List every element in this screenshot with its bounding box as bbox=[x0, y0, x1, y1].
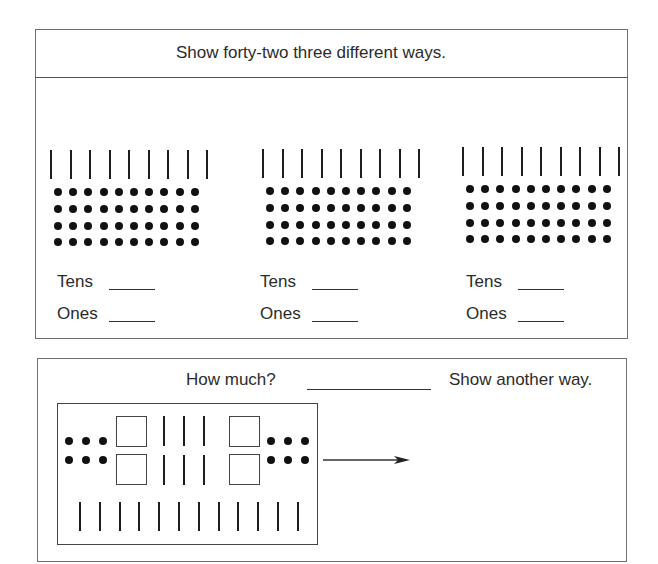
tens-stick bbox=[462, 147, 464, 176]
tens-stick bbox=[579, 147, 581, 176]
tens-label: Tens bbox=[57, 272, 93, 292]
ones-dot bbox=[281, 221, 289, 229]
ones-dot bbox=[357, 221, 365, 229]
tens-stick bbox=[167, 150, 169, 179]
tens-stick bbox=[257, 502, 259, 531]
how-much-answer-blank[interactable] bbox=[307, 389, 431, 390]
top-panel bbox=[35, 29, 628, 339]
tens-stick bbox=[501, 147, 503, 176]
ones-dot bbox=[512, 235, 520, 243]
ones-dot bbox=[603, 202, 611, 210]
ones-dot bbox=[312, 221, 320, 229]
ones-dot bbox=[388, 221, 396, 229]
ones-dot bbox=[160, 222, 168, 230]
ones-dot bbox=[266, 187, 274, 195]
tens-stick bbox=[183, 455, 185, 485]
tens-stick bbox=[148, 150, 150, 179]
ones-dot bbox=[542, 185, 550, 193]
hundred-square bbox=[116, 454, 147, 485]
ones-dot bbox=[54, 222, 62, 230]
ones-dot bbox=[342, 204, 350, 212]
tens-stick bbox=[262, 149, 264, 178]
tens-stick bbox=[399, 149, 401, 178]
ones-dot bbox=[388, 204, 396, 212]
ones-dot bbox=[296, 221, 304, 229]
ones-dot bbox=[191, 188, 199, 196]
ones-dot bbox=[557, 219, 565, 227]
ones-dot bbox=[84, 222, 92, 230]
show-another-way-area[interactable] bbox=[430, 400, 620, 550]
ones-dot bbox=[267, 437, 275, 445]
ones-dot bbox=[115, 188, 123, 196]
ones-dot bbox=[266, 204, 274, 212]
ones-dot bbox=[145, 205, 153, 213]
hundred-square bbox=[116, 416, 147, 447]
tens-label: Tens bbox=[260, 272, 296, 292]
ones-dot bbox=[557, 202, 565, 210]
ones-dot bbox=[54, 205, 62, 213]
ones-dot bbox=[69, 222, 77, 230]
ones-dot bbox=[512, 202, 520, 210]
ones-label: Ones bbox=[57, 304, 98, 324]
tens-stick bbox=[340, 149, 342, 178]
ones-dot bbox=[191, 205, 199, 213]
ones-dot bbox=[588, 219, 596, 227]
ones-dot bbox=[191, 222, 199, 230]
hundred-square bbox=[229, 454, 260, 485]
ones-dot bbox=[481, 219, 489, 227]
ones-dot bbox=[130, 188, 138, 196]
ones-dot bbox=[145, 222, 153, 230]
ones-dot bbox=[100, 238, 108, 246]
tens-stick bbox=[138, 502, 140, 531]
ones-dot bbox=[266, 221, 274, 229]
tens-answer-blank[interactable] bbox=[109, 289, 155, 290]
ones-dot bbox=[572, 219, 580, 227]
tens-stick bbox=[301, 149, 303, 178]
ones-dot bbox=[327, 187, 335, 195]
tens-stick bbox=[218, 502, 220, 531]
ones-dot bbox=[65, 437, 73, 445]
ones-dot bbox=[542, 219, 550, 227]
ones-dot bbox=[312, 187, 320, 195]
tens-stick bbox=[89, 150, 91, 179]
ones-dot bbox=[466, 219, 474, 227]
ones-answer-blank[interactable] bbox=[109, 321, 155, 322]
top-panel-title: Show forty-two three different ways. bbox=[176, 43, 446, 63]
ones-answer-blank[interactable] bbox=[312, 321, 358, 322]
ones-dot bbox=[372, 221, 380, 229]
ones-dot bbox=[327, 221, 335, 229]
tens-stick bbox=[203, 455, 205, 485]
ones-dot bbox=[357, 204, 365, 212]
ones-dot bbox=[301, 437, 309, 445]
tens-stick bbox=[198, 502, 200, 531]
ones-dot bbox=[496, 219, 504, 227]
ones-dot bbox=[342, 187, 350, 195]
tens-stick bbox=[50, 150, 52, 179]
tens-stick bbox=[418, 149, 420, 178]
ones-dot bbox=[388, 237, 396, 245]
ones-dot bbox=[100, 222, 108, 230]
tens-stick bbox=[70, 150, 72, 179]
ones-answer-blank[interactable] bbox=[518, 321, 564, 322]
ones-dot bbox=[527, 219, 535, 227]
tens-stick bbox=[282, 149, 284, 178]
tens-stick bbox=[119, 502, 121, 531]
tens-stick bbox=[203, 416, 205, 446]
ones-dot bbox=[588, 185, 596, 193]
ones-dot bbox=[466, 202, 474, 210]
ones-dot bbox=[512, 219, 520, 227]
tens-answer-blank[interactable] bbox=[518, 289, 564, 290]
ones-dot bbox=[327, 204, 335, 212]
ones-dot bbox=[312, 237, 320, 245]
tens-stick bbox=[158, 502, 160, 531]
ones-dot bbox=[542, 202, 550, 210]
arrow-right-icon bbox=[322, 454, 412, 466]
ones-dot bbox=[527, 202, 535, 210]
tens-stick bbox=[128, 150, 130, 179]
ones-dot bbox=[603, 219, 611, 227]
show-another-way-instruction: Show another way. bbox=[449, 370, 592, 390]
tens-label: Tens bbox=[466, 272, 502, 292]
tens-stick bbox=[379, 149, 381, 178]
top-panel-header-divider bbox=[35, 77, 628, 78]
tens-answer-blank[interactable] bbox=[312, 289, 358, 290]
